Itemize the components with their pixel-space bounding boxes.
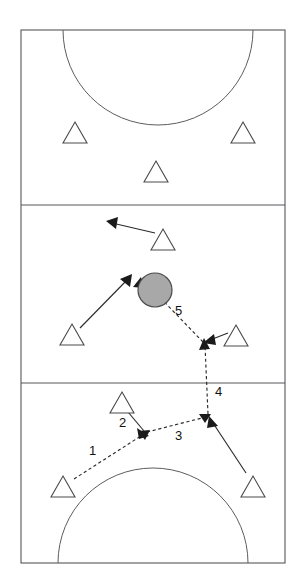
- players-group: [51, 122, 265, 497]
- route-1-pass-line: [74, 434, 144, 479]
- movement-arrows-group: [80, 217, 246, 473]
- player-marker-middle-upper[interactable]: [151, 229, 175, 250]
- player-marker-bottom-upper[interactable]: [110, 392, 134, 413]
- ball-group: [138, 273, 172, 307]
- player-marker-bottom-right[interactable]: [241, 476, 265, 497]
- route-labels-group: 1 2 3 4 5: [89, 303, 222, 458]
- route-label-3: 3: [175, 428, 182, 443]
- movement-arrow-top-cut-line: [112, 223, 155, 233]
- player-marker-bottom-left[interactable]: [51, 476, 75, 497]
- route-label-4: 4: [215, 384, 222, 399]
- movement-arrow-bottom-right-cut-head: [207, 416, 218, 428]
- player-marker-top-left[interactable]: [63, 122, 87, 143]
- route-label-5: 5: [175, 303, 182, 318]
- top-key-arc: [63, 30, 253, 125]
- movement-arrow-left-drive-line: [80, 280, 127, 328]
- bottom-key-arc: [58, 468, 248, 563]
- movement-arrow-top-cut-head: [106, 217, 118, 229]
- route-label-2: 2: [119, 415, 126, 430]
- route-4-pass-line: [205, 345, 208, 414]
- ball-marker[interactable]: [138, 273, 172, 307]
- route-2-cut-line: [128, 412, 144, 431]
- court-diagram-canvas: 1 2 3 4 5: [0, 0, 305, 587]
- movement-arrow-bottom-right-cut-line: [213, 423, 246, 473]
- route-label-1: 1: [89, 443, 96, 458]
- player-marker-top-center[interactable]: [144, 161, 168, 182]
- player-marker-middle-right[interactable]: [224, 325, 248, 346]
- court-diagram-root: 1 2 3 4 5: [0, 0, 305, 587]
- player-marker-top-right[interactable]: [231, 122, 255, 143]
